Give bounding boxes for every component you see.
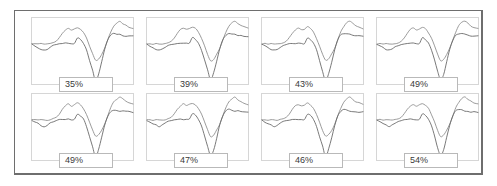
- panel-percentage-label: 46%: [289, 153, 343, 168]
- waveform-panel: [376, 17, 479, 85]
- waveform-trace-a: [147, 97, 248, 137]
- panel-percentage-label: 54%: [404, 153, 458, 168]
- waveform-plot-area: [261, 93, 364, 161]
- panel-percentage-label: 35%: [59, 77, 113, 92]
- waveform-panel: [261, 17, 364, 85]
- waveform-trace-b: [377, 33, 478, 79]
- waveform-panel: [31, 17, 134, 85]
- waveform-panel: [146, 93, 249, 161]
- waveform-trace-b: [32, 33, 133, 81]
- waveform-trace-a: [377, 97, 478, 137]
- waveform-plot-area: [376, 17, 479, 85]
- waveform-trace-a: [262, 21, 363, 60]
- waveform-panel: [31, 93, 134, 161]
- waveform-trace-b: [147, 33, 248, 79]
- panel-percentage-label: 43%: [289, 77, 343, 92]
- panel-percentage-label: 49%: [404, 77, 458, 92]
- waveform-plot-area: [146, 93, 249, 161]
- waveform-panel: [146, 17, 249, 85]
- figure-frame: 35%39%43%49%49%47%46%54%: [14, 10, 483, 175]
- waveform-plot-area: [31, 17, 134, 85]
- waveform-plot-area: [146, 17, 249, 85]
- waveform-trace-a: [32, 97, 133, 136]
- panel-grid: 35%39%43%49%49%47%46%54%: [15, 11, 481, 173]
- waveform-trace-b: [262, 34, 363, 81]
- waveform-plot-area: [376, 93, 479, 161]
- waveform-trace-b: [377, 109, 478, 155]
- waveform-plot-area: [261, 17, 364, 85]
- panel-percentage-label: 49%: [59, 153, 113, 168]
- panel-percentage-label: 47%: [174, 153, 228, 168]
- waveform-trace-a: [262, 97, 363, 136]
- waveform-trace-b: [32, 110, 133, 157]
- waveform-panel: [376, 93, 479, 161]
- panel-percentage-label: 39%: [174, 77, 228, 92]
- waveform-trace-a: [377, 21, 478, 61]
- waveform-trace-b: [262, 109, 363, 157]
- waveform-plot-area: [31, 93, 134, 161]
- waveform-trace-a: [32, 21, 133, 60]
- waveform-panel: [261, 93, 364, 161]
- waveform-trace-b: [147, 109, 248, 156]
